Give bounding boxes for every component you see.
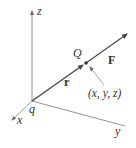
coordinates-label: (x, y, z): [88, 88, 121, 100]
charge-q-label: q: [29, 103, 35, 115]
z-axis-label: z: [37, 5, 42, 17]
coordinates-leader-line: [90, 67, 104, 85]
position-vector-label: r: [64, 76, 69, 88]
force-vector-f: [86, 34, 127, 63]
point-q-label: Q: [73, 47, 82, 59]
point-q-dot: [84, 61, 88, 65]
force-vector-label: F: [108, 54, 115, 66]
position-vector-r: [32, 65, 83, 101]
x-axis-label: x: [17, 114, 22, 126]
y-axis-label: y: [115, 125, 120, 137]
y-axis: [32, 101, 125, 126]
